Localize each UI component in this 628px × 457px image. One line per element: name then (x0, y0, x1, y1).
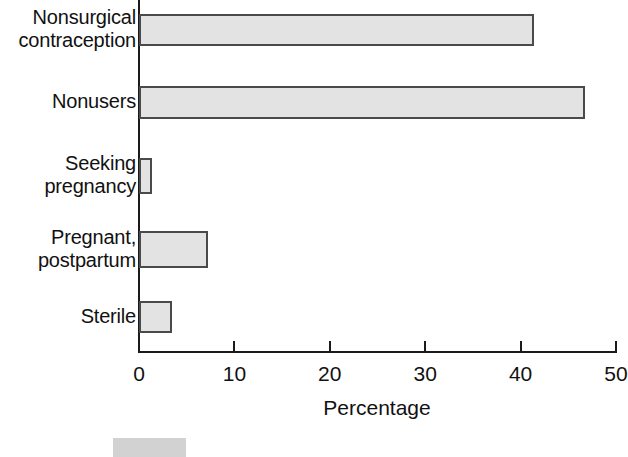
x-tick (233, 341, 235, 353)
x-axis-line (138, 351, 616, 353)
category-label: Nonsurgical contraception (0, 6, 136, 52)
x-tick (424, 341, 426, 353)
x-tick-label: 40 (491, 362, 551, 386)
category-label: Sterile (0, 305, 136, 328)
x-tick (329, 341, 331, 353)
x-tick-label: 30 (395, 362, 455, 386)
x-axis-title: Percentage (138, 396, 616, 420)
category-label: Seeking pregnancy (0, 152, 136, 198)
legend-swatch (113, 438, 186, 457)
category-label: Nonusers (0, 90, 136, 113)
x-tick-label: 20 (300, 362, 360, 386)
x-tick-label: 10 (204, 362, 264, 386)
bar (139, 231, 208, 268)
bar (139, 158, 152, 194)
category-label: Pregnant, postpartum (0, 226, 136, 272)
x-tick-label: 0 (109, 362, 169, 386)
x-tick (615, 341, 617, 353)
bar (139, 14, 534, 46)
bar (139, 86, 585, 119)
x-tick (138, 341, 140, 353)
bar (139, 301, 172, 333)
x-tick-label: 50 (586, 362, 628, 386)
x-tick (520, 341, 522, 353)
